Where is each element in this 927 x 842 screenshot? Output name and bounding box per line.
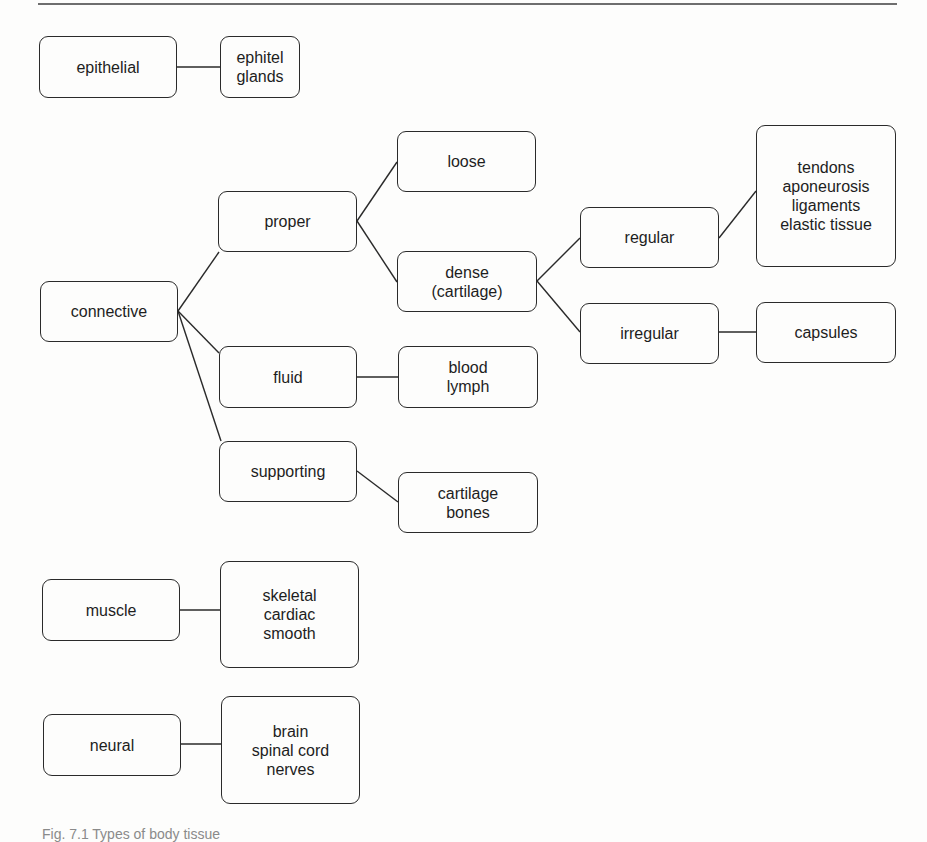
node-label: proper — [264, 212, 310, 231]
node-label: ligaments — [792, 196, 860, 215]
node-connective: connective — [40, 281, 178, 342]
figure-caption: Fig. 7.1 Types of body tissue — [42, 826, 220, 842]
node-label: connective — [71, 302, 148, 321]
node-label: smooth — [263, 624, 315, 643]
edge-dense-regular — [537, 238, 580, 281]
node-label: glands — [236, 67, 283, 86]
node-supporting-examples: cartilage bones — [398, 472, 538, 533]
node-supporting: supporting — [219, 441, 357, 502]
edge-proper-dense — [357, 221, 397, 282]
node-label: dense — [445, 263, 489, 282]
edge-dense-irregular — [537, 281, 580, 332]
node-loose: loose — [397, 131, 536, 192]
node-label: cartilage — [438, 484, 498, 503]
edge-supporting-examples — [357, 471, 398, 502]
node-label: supporting — [251, 462, 326, 481]
node-label: irregular — [620, 324, 679, 343]
node-label: capsules — [794, 323, 857, 342]
node-epithelial: epithelial — [39, 36, 177, 98]
edge-connective-supporting — [178, 311, 221, 441]
node-label: skeletal — [262, 586, 316, 605]
node-label: bones — [446, 503, 490, 522]
node-regular-examples: tendons aponeurosis ligaments elastic ti… — [756, 125, 896, 267]
edge-proper-loose — [357, 162, 397, 221]
node-label: neural — [90, 736, 134, 755]
edge-connective-proper — [178, 252, 219, 311]
node-label: nerves — [266, 760, 314, 779]
node-label: muscle — [86, 601, 137, 620]
node-regular: regular — [580, 207, 719, 268]
node-neural: neural — [43, 714, 181, 776]
node-irregular: irregular — [580, 303, 719, 364]
node-label: fluid — [273, 368, 302, 387]
node-neural-examples: brain spinal cord nerves — [221, 696, 360, 804]
edge-connective-fluid — [178, 311, 219, 353]
node-muscle-examples: skeletal cardiac smooth — [220, 561, 359, 668]
node-fluid: fluid — [219, 346, 357, 408]
node-label: (cartilage) — [431, 282, 502, 301]
node-label: aponeurosis — [782, 177, 869, 196]
node-epithel-glands: ephitel glands — [220, 36, 300, 98]
node-label: blood — [448, 358, 487, 377]
node-proper: proper — [218, 191, 357, 252]
node-label: brain — [273, 722, 309, 741]
node-label: ephitel — [236, 48, 283, 67]
node-label: tendons — [798, 158, 855, 177]
node-label: loose — [447, 152, 485, 171]
node-fluid-examples: blood lymph — [398, 346, 538, 408]
node-label: regular — [625, 228, 675, 247]
node-capsules: capsules — [756, 302, 896, 363]
node-label: spinal cord — [252, 741, 329, 760]
edge-regular-examples — [719, 191, 756, 238]
node-label: cardiac — [264, 605, 316, 624]
node-label: elastic tissue — [780, 215, 872, 234]
node-label: lymph — [447, 377, 490, 396]
node-muscle: muscle — [42, 579, 180, 641]
node-dense: dense (cartilage) — [397, 251, 537, 312]
node-label: epithelial — [76, 58, 139, 77]
